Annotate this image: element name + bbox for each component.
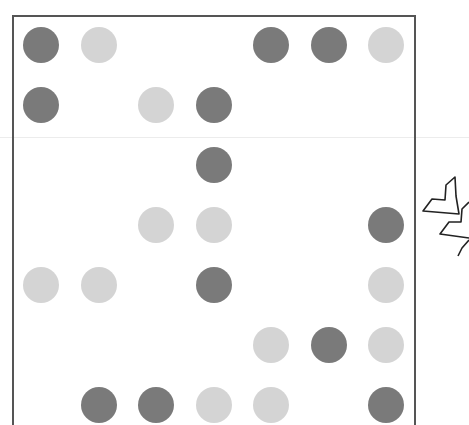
empty-cell[interactable]: [81, 327, 117, 363]
empty-cell[interactable]: [81, 207, 117, 243]
empty-cell[interactable]: [253, 267, 289, 303]
chevron-stack-icon[interactable]: [418, 170, 469, 260]
empty-cell[interactable]: [23, 327, 59, 363]
dark-piece[interactable]: [196, 147, 232, 183]
light-piece[interactable]: [253, 327, 289, 363]
empty-cell[interactable]: [311, 387, 347, 423]
light-piece[interactable]: [368, 267, 404, 303]
dark-piece[interactable]: [368, 387, 404, 423]
dark-piece[interactable]: [311, 27, 347, 63]
empty-cell[interactable]: [138, 327, 174, 363]
dark-piece[interactable]: [23, 87, 59, 123]
dark-piece[interactable]: [196, 87, 232, 123]
light-piece[interactable]: [81, 27, 117, 63]
empty-cell[interactable]: [138, 147, 174, 183]
light-piece[interactable]: [253, 387, 289, 423]
light-piece[interactable]: [368, 27, 404, 63]
empty-cell[interactable]: [196, 27, 232, 63]
empty-cell[interactable]: [311, 87, 347, 123]
empty-cell[interactable]: [368, 87, 404, 123]
dark-piece[interactable]: [23, 27, 59, 63]
light-piece[interactable]: [81, 267, 117, 303]
empty-cell[interactable]: [253, 87, 289, 123]
dark-piece[interactable]: [196, 267, 232, 303]
light-piece[interactable]: [368, 327, 404, 363]
empty-cell[interactable]: [311, 207, 347, 243]
empty-cell[interactable]: [311, 267, 347, 303]
empty-cell[interactable]: [196, 327, 232, 363]
empty-cell[interactable]: [311, 147, 347, 183]
light-piece[interactable]: [196, 387, 232, 423]
empty-cell[interactable]: [23, 207, 59, 243]
empty-cell[interactable]: [138, 267, 174, 303]
light-piece[interactable]: [196, 207, 232, 243]
dark-piece[interactable]: [138, 387, 174, 423]
empty-cell[interactable]: [368, 147, 404, 183]
empty-cell[interactable]: [23, 387, 59, 423]
empty-cell[interactable]: [253, 147, 289, 183]
empty-cell[interactable]: [253, 207, 289, 243]
game-board: [12, 15, 416, 425]
dark-piece[interactable]: [253, 27, 289, 63]
dark-piece[interactable]: [368, 207, 404, 243]
empty-cell[interactable]: [81, 147, 117, 183]
dark-piece[interactable]: [81, 387, 117, 423]
empty-cell[interactable]: [23, 147, 59, 183]
light-piece[interactable]: [23, 267, 59, 303]
empty-cell[interactable]: [138, 27, 174, 63]
light-piece[interactable]: [138, 87, 174, 123]
empty-cell[interactable]: [81, 87, 117, 123]
dark-piece[interactable]: [311, 327, 347, 363]
light-piece[interactable]: [138, 207, 174, 243]
